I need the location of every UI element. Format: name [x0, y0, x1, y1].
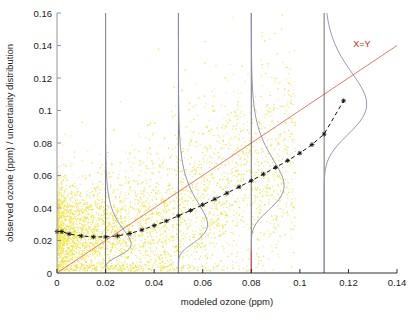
- x-tick-label: 0.1: [293, 277, 306, 288]
- y-tick-label: 0.08: [34, 138, 53, 149]
- figure-container: 00.020.040.060.080.10.120.1400.020.040.0…: [0, 0, 414, 324]
- x-tick-label: 0.12: [339, 277, 358, 288]
- scatter-plot-svg: 00.020.040.060.080.10.120.1400.020.040.0…: [0, 0, 414, 324]
- plot-background: [57, 13, 397, 273]
- x-tick-label: 0.14: [388, 277, 407, 288]
- x-tick-label: 0: [54, 277, 59, 288]
- identity-line-label: X=Y: [353, 39, 370, 49]
- y-tick-label: 0.12: [34, 73, 53, 84]
- y-tick-label: 0.16: [34, 8, 53, 19]
- x-tick-label: 0.04: [145, 277, 164, 288]
- x-tick-label: 0.08: [242, 277, 261, 288]
- x-tick-label: 0.02: [96, 277, 115, 288]
- y-tick-label: 0: [47, 268, 52, 279]
- y-tick-label: 0.04: [34, 203, 53, 214]
- y-tick-label: 0.1: [39, 105, 52, 116]
- y-tick-label: 0.02: [34, 235, 53, 246]
- annotations-layer: X=Y: [353, 39, 370, 49]
- x-tick-label: 0.06: [193, 277, 212, 288]
- y-axis-title: observed ozone (ppm) / uncertainty distr…: [4, 44, 15, 242]
- x-axis-title: modeled ozone (ppm): [181, 296, 273, 307]
- y-tick-label: 0.06: [34, 170, 53, 181]
- y-tick-label: 0.14: [34, 40, 53, 51]
